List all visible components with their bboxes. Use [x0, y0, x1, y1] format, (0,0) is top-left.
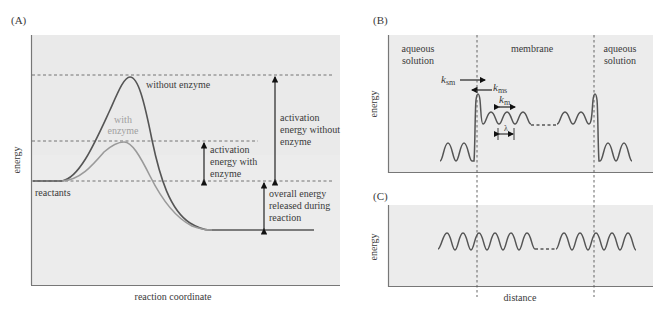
label-overall-1: overall energy [269, 188, 326, 199]
label-reactants: reactants [35, 187, 71, 198]
label-with-enzyme-2: enzyme [107, 125, 139, 136]
panel-b-ylabel: energy [368, 90, 379, 117]
panel-c-label: (C) [373, 190, 388, 203]
label-activation-with-2: energy with [210, 156, 257, 167]
label-right-aqueous-1: aqueous [604, 43, 637, 54]
panel-c: (C) energy distance [368, 190, 653, 303]
panel-a-ylabel: energy [11, 146, 22, 173]
panel-b-label: (B) [373, 14, 388, 27]
label-without-enzyme: without enzyme [146, 79, 211, 90]
label-activation-without-2: energy without [280, 124, 340, 135]
panel-c-xlabel: distance [504, 292, 537, 303]
panel-c-ylabel: energy [368, 233, 379, 260]
panel-b: (B) aqueous solution membrane aqueous so… [368, 14, 653, 173]
label-activation-with-1: activation [210, 144, 249, 155]
label-left-aqueous-1: aqueous [402, 43, 435, 54]
label-overall-3: reaction [269, 212, 301, 223]
label-lambda: λ [504, 124, 508, 133]
panel-a: (A) without enzyme with enzyme reactants… [11, 14, 340, 302]
label-left-aqueous-2: solution [402, 55, 434, 66]
label-activation-with-3: enzyme [210, 168, 242, 179]
label-overall-2: released during [269, 200, 330, 211]
panel-a-xlabel: reaction coordinate [135, 291, 212, 302]
label-right-aqueous-2: solution [604, 55, 636, 66]
label-activation-without-1: activation [280, 112, 319, 123]
label-activation-without-3: enzyme [280, 136, 312, 147]
enzyme-energy-diagram: (A) without enzyme with enzyme reactants… [0, 0, 666, 314]
label-with-enzyme-1: with [114, 114, 132, 125]
panel-a-label: (A) [11, 14, 27, 27]
label-membrane: membrane [511, 43, 554, 54]
